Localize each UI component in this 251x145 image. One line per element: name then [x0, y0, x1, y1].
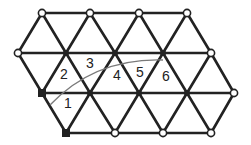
region-label-5: 5	[136, 64, 144, 80]
region-label-2: 2	[60, 66, 68, 82]
vertex-filled-dot	[184, 90, 189, 95]
vertex-open-circle	[111, 129, 118, 136]
vertex-open-circle	[159, 129, 166, 136]
lattice-edge	[18, 53, 42, 93]
vertex-open-circle	[230, 89, 237, 96]
vertex-filled-dot	[63, 50, 68, 55]
lattice-edge	[187, 13, 211, 53]
lattice-edge	[163, 13, 187, 53]
vertex-open-circle	[135, 9, 142, 16]
lattice-edges	[18, 13, 234, 133]
lattice-edge	[211, 93, 234, 133]
lattice-edge	[163, 93, 187, 133]
vertex-open-circle	[207, 129, 214, 136]
region-label-4: 4	[113, 67, 121, 83]
vertex-filled-dot	[160, 50, 165, 55]
lattice-edge	[115, 13, 139, 53]
lattice-edge	[90, 13, 115, 53]
lattice-edge	[115, 93, 139, 133]
vertex-square-marker	[63, 130, 70, 137]
vertex-filled-dot	[112, 50, 117, 55]
vertex-open-circle	[14, 49, 21, 56]
region-label-3: 3	[86, 55, 94, 71]
vertex-open-circle	[207, 49, 214, 56]
lattice-edge	[187, 53, 211, 93]
lattice-edge	[139, 93, 163, 133]
vertex-filled-dot	[87, 90, 92, 95]
lattice-edge	[18, 13, 42, 53]
lattice-edge	[42, 93, 66, 133]
vertex-open-circle	[183, 9, 190, 16]
lattice-edge	[66, 13, 90, 53]
lattice-edge	[187, 93, 211, 133]
region-label-1: 1	[64, 95, 72, 111]
lattice-edge	[42, 13, 66, 53]
vertex-filled-dot	[136, 90, 141, 95]
vertex-open-circle	[86, 9, 93, 16]
lattice-edge	[139, 13, 163, 53]
region-label-6: 6	[162, 68, 170, 84]
vertex-open-circle	[38, 9, 45, 16]
lattice-edge	[90, 93, 115, 133]
lattice-edge	[211, 53, 234, 93]
vertex-square-marker	[39, 90, 46, 97]
triangular-lattice-diagram: 1 2 3 4 5 6	[0, 0, 251, 145]
